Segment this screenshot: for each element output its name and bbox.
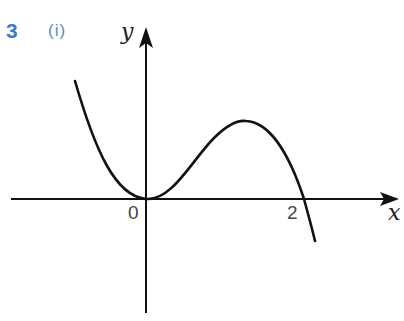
origin-label: 0 xyxy=(128,202,139,223)
y-axis xyxy=(139,27,153,313)
cubic-graph: y x 0 2 xyxy=(0,0,404,321)
y-axis-label: y xyxy=(120,19,134,44)
x-tick-label-2: 2 xyxy=(287,202,298,223)
x-axis-label: x xyxy=(388,200,401,225)
x-axis xyxy=(11,192,399,206)
cubic-curve xyxy=(75,81,315,241)
